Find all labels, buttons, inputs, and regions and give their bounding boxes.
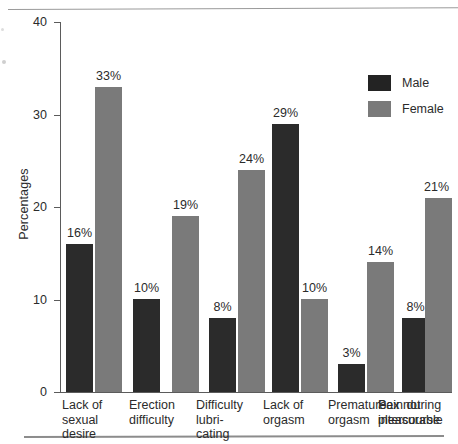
legend: Male Female (368, 70, 454, 122)
y-tick-30: 30 (0, 115, 61, 116)
bar-male-premature-orgasm (272, 124, 299, 392)
bar-value-label: 8% (203, 301, 242, 314)
bar-value-label: 16% (60, 227, 99, 240)
bar-value-label: 24% (232, 153, 271, 166)
bar-value-label: 14% (361, 245, 400, 258)
bar-female-sex-not-pleasurable (425, 198, 452, 392)
bar-female-lack-of-orgasm (238, 170, 265, 392)
legend-item-male: Male (368, 70, 454, 96)
x-label-line: Sex not (378, 398, 456, 413)
legend-item-female: Female (368, 96, 454, 122)
bar-value-label: 10% (295, 282, 334, 295)
x-category-label-lack-of-orgasm: Lack of orgasm (263, 398, 329, 427)
bar-male-pain-during-intercourse (338, 364, 365, 392)
bar-male-lack-of-sexual-desire (66, 244, 93, 392)
bar-chart-figure: 40 30 20 10 0 Percentages 16% 33% 10% 19… (0, 0, 458, 444)
y-tick-10: 10 (0, 300, 61, 301)
x-label-line: pleasurable (378, 413, 456, 428)
bar-male-lack-of-orgasm (209, 318, 236, 392)
x-label-line: desire (62, 427, 128, 442)
x-label-line: Erection (129, 398, 195, 413)
x-label-line: sexual (62, 413, 128, 428)
x-category-label-lack-of-sexual-desire: Lack of sexual desire (62, 398, 128, 442)
x-category-label-erection-difficulty: Erection difficulty (129, 398, 195, 427)
bar-female-pain-during-intercourse (367, 262, 394, 392)
x-label-line: Lack of (62, 398, 128, 413)
y-tick-label-0: 0 (5, 386, 47, 398)
x-label-line: orgasm (263, 413, 329, 428)
bar-value-label: 29% (266, 107, 305, 120)
y-tick-label-40: 40 (5, 16, 47, 28)
page-rule-top (8, 7, 458, 10)
legend-swatch-male-icon (368, 75, 391, 91)
bar-value-label: 21% (417, 181, 456, 194)
x-category-label-sex-not-pleasurable: Sex not pleasurable (378, 398, 456, 427)
bar-value-label: 3% (332, 347, 371, 360)
x-label-line: Difficulty (196, 398, 262, 413)
y-tick-label-30: 30 (5, 109, 47, 121)
bar-value-label: 19% (166, 199, 205, 212)
bar-female-lack-of-sexual-desire (95, 87, 122, 392)
bar-female-difficulty-lubricating (172, 216, 199, 392)
bar-value-label: 33% (89, 70, 128, 83)
scan-artifact (1, 28, 4, 31)
y-tick-40: 40 (0, 22, 61, 23)
legend-label-female: Female (402, 102, 444, 116)
x-label-line: cating (196, 427, 262, 442)
x-label-line: Lack of (263, 398, 329, 413)
scan-artifact (2, 60, 6, 64)
y-tick-label-10: 10 (5, 294, 47, 306)
legend-label-male: Male (402, 76, 429, 90)
y-axis-title: Percentages (17, 124, 31, 284)
x-category-label-difficulty-lubricating: Difficulty lubri- cating (196, 398, 262, 442)
bar-male-erection-difficulty (133, 299, 160, 392)
bar-value-label: 10% (127, 282, 166, 295)
bar-female-premature-orgasm (301, 299, 328, 392)
x-label-line: difficulty (129, 413, 195, 428)
x-axis-line (60, 392, 452, 393)
x-label-line: lubri- (196, 413, 262, 428)
legend-swatch-female-icon (368, 101, 391, 117)
y-tick-0: 0 (0, 392, 61, 393)
